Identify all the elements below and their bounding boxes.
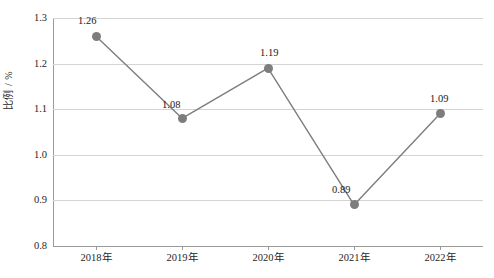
data-point-marker (264, 64, 273, 73)
x-axis-ticks (53, 246, 483, 251)
data-point-marker (178, 114, 187, 123)
x-axis-tick-label: 2021年 (339, 252, 370, 265)
y-axis-tick-label: 1.0 (34, 150, 47, 161)
data-point-label: 1.19 (260, 48, 278, 59)
x-axis-tick-labels: 2018年2019年2020年2021年2022年 (53, 252, 483, 270)
x-axis-tick-label: 2020年 (253, 252, 284, 265)
x-axis-tick (268, 246, 269, 250)
data-point-marker (92, 32, 101, 41)
y-axis-tick-label: 1.3 (34, 13, 47, 24)
y-axis-tick-label: 1.2 (34, 58, 47, 69)
x-axis-tick (440, 246, 441, 250)
y-axis-tick-label: 0.8 (34, 241, 47, 252)
x-axis-tick-label: 2022年 (425, 252, 456, 265)
series-polyline (96, 36, 440, 205)
x-axis-tick (354, 246, 355, 250)
data-point-label: 0.89 (332, 185, 350, 196)
x-axis-tick (182, 246, 183, 250)
y-axis-tick-label: 0.9 (34, 195, 47, 206)
plot-area: 1.261.081.190.891.09 (53, 18, 483, 246)
x-axis-tick-label: 2019年 (167, 252, 198, 265)
data-point-marker (350, 200, 359, 209)
data-point-label: 1.26 (78, 16, 96, 27)
data-point-marker (436, 109, 445, 118)
y-axis-tick-label: 1.1 (34, 104, 47, 115)
data-point-label: 1.08 (162, 100, 180, 111)
data-point-label: 1.09 (430, 94, 448, 105)
line-chart: 比例 / % 0.80.91.01.11.21.3 1.261.081.190.… (0, 0, 494, 278)
x-axis-tick (96, 246, 97, 250)
x-axis-tick-label: 2018年 (81, 252, 112, 265)
y-axis-tick-labels: 0.80.91.01.11.21.3 (0, 18, 47, 246)
